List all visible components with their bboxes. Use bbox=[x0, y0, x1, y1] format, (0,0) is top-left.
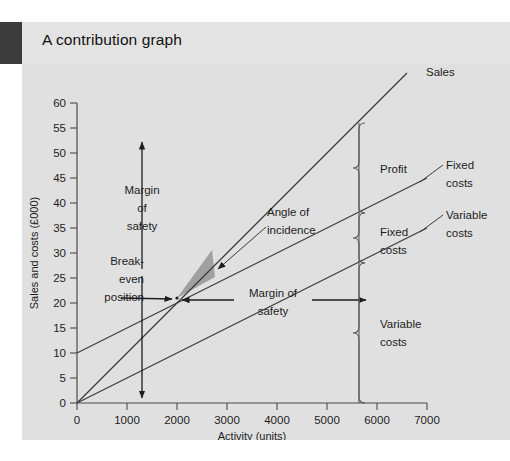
angle-of-incidence-line2: incidence bbox=[267, 224, 316, 236]
y-tick-10: 10 bbox=[53, 347, 66, 359]
angle-of-incidence-line1: Angle of bbox=[267, 206, 310, 218]
margin-vertical-line3: safety bbox=[127, 220, 158, 232]
x-tick-7000: 7000 bbox=[414, 414, 440, 426]
break-even-line2: even bbox=[119, 273, 144, 285]
fixed-costs-label-leader bbox=[420, 165, 443, 182]
title-accent-marker bbox=[0, 22, 22, 64]
break-even-line1: Break- bbox=[110, 255, 144, 267]
angle-of-incidence-wedge bbox=[177, 250, 215, 298]
y-axis-tick-labels: 60 55 50 45 40 35 30 25 20 15 10 5 0 bbox=[53, 97, 66, 409]
y-tick-45: 45 bbox=[53, 172, 66, 184]
x-axis-ticks bbox=[77, 403, 427, 410]
fixed-costs-label-line1: Fixed bbox=[446, 159, 474, 171]
margin-horizontal-line2: safety bbox=[258, 305, 289, 317]
x-tick-6000: 6000 bbox=[364, 414, 390, 426]
x-tick-3000: 3000 bbox=[214, 414, 240, 426]
x-tick-4000: 4000 bbox=[264, 414, 290, 426]
brace-fixed-line1: Fixed bbox=[380, 226, 408, 238]
y-tick-20: 20 bbox=[53, 297, 66, 309]
sales-line bbox=[77, 73, 407, 403]
figure-page: A contribution graph bbox=[0, 0, 510, 461]
y-tick-30: 30 bbox=[53, 247, 66, 259]
x-tick-1000: 1000 bbox=[114, 414, 140, 426]
contribution-graph-svg: 60 55 50 45 40 35 30 25 20 15 10 5 0 Sal… bbox=[22, 64, 510, 440]
y-tick-60: 60 bbox=[53, 97, 66, 109]
variable-costs-label-leader bbox=[420, 215, 443, 232]
y-axis-ticks bbox=[70, 103, 77, 403]
y-tick-50: 50 bbox=[53, 147, 66, 159]
fixed-costs-label-line2: costs bbox=[446, 177, 473, 189]
x-tick-2000: 2000 bbox=[164, 414, 190, 426]
break-even-line3: position bbox=[104, 291, 144, 303]
x-axis-tick-labels: 0 1000 2000 3000 4000 5000 6000 7000 bbox=[74, 414, 440, 426]
y-tick-25: 25 bbox=[53, 272, 66, 284]
y-tick-40: 40 bbox=[53, 197, 66, 209]
brace-variable-line2: costs bbox=[380, 336, 407, 348]
margin-horizontal-line1: Margin of bbox=[249, 287, 298, 299]
brace-fixed-line2: costs bbox=[380, 244, 407, 256]
brace-variable-line1: Variable bbox=[380, 318, 421, 330]
y-tick-0: 0 bbox=[60, 397, 66, 409]
variable-costs-label-line2: costs bbox=[446, 227, 473, 239]
y-tick-5: 5 bbox=[60, 372, 66, 384]
y-axis-title: Sales and costs (£000) bbox=[28, 197, 40, 310]
sales-line-label: Sales bbox=[426, 66, 455, 78]
margin-vertical-line1: Margin bbox=[124, 184, 159, 196]
variable-costs-label-line1: Variable bbox=[446, 209, 487, 221]
brace-profit-label: Profit bbox=[380, 163, 408, 175]
x-axis-title: Activity (units) bbox=[218, 430, 286, 440]
break-even-point bbox=[175, 296, 178, 299]
y-tick-35: 35 bbox=[53, 222, 66, 234]
chart-figure: 60 55 50 45 40 35 30 25 20 15 10 5 0 Sal… bbox=[22, 64, 510, 440]
x-tick-5000: 5000 bbox=[314, 414, 340, 426]
y-tick-55: 55 bbox=[53, 122, 66, 134]
y-tick-15: 15 bbox=[53, 322, 66, 334]
margin-vertical-line2: of bbox=[137, 202, 147, 214]
page-title: A contribution graph bbox=[42, 31, 182, 49]
x-tick-0: 0 bbox=[74, 414, 80, 426]
